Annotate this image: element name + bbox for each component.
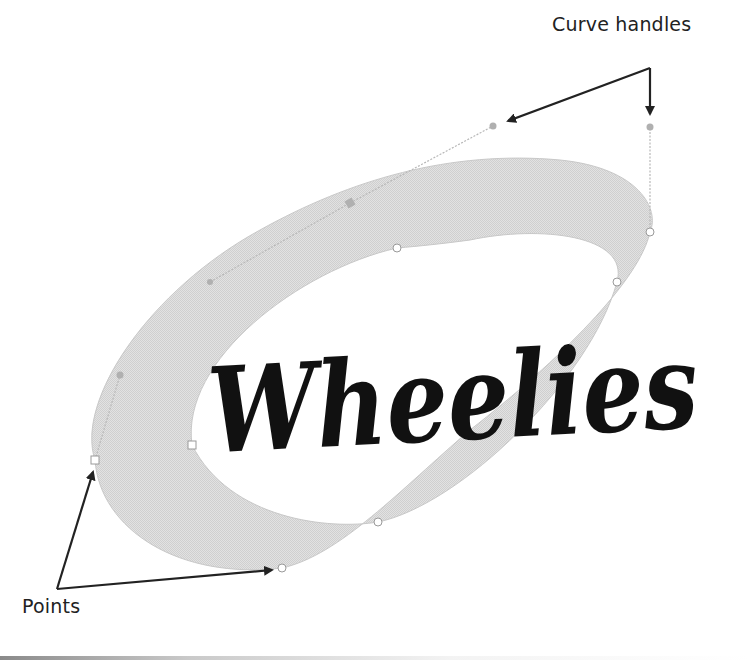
bezier-diagram: Wheelies: [0, 0, 749, 660]
arrow-to-bottom-point: [57, 570, 272, 589]
anchor-point-icon[interactable]: [613, 278, 621, 286]
arrow-to-left-point: [57, 472, 93, 589]
anchor-point-icon[interactable]: [374, 518, 382, 526]
anchor-point-icon[interactable]: [393, 244, 401, 252]
curve-handle-icon[interactable]: [490, 123, 497, 130]
curve-handle-icon[interactable]: [647, 124, 654, 131]
curve-handles-label: Curve handles: [552, 13, 691, 35]
anchor-point-icon[interactable]: [278, 564, 286, 572]
anchor-point-icon[interactable]: [646, 228, 654, 236]
curve-handle-icon[interactable]: [207, 279, 213, 285]
anchor-point-icon[interactable]: [188, 441, 196, 449]
bottom-divider: [0, 656, 749, 660]
curve-handle-icon[interactable]: [117, 372, 124, 379]
anchor-point-icon[interactable]: [91, 456, 99, 464]
arrow-to-top-handle: [508, 68, 650, 121]
points-label: Points: [22, 595, 80, 617]
curve-handles-callout: [508, 68, 650, 121]
wheelies-logotype: Wheelies: [205, 316, 702, 480]
